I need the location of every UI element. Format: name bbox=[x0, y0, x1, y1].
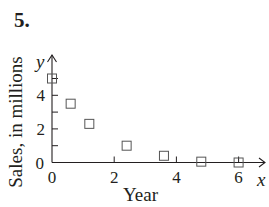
x-axis-letter: x bbox=[256, 169, 266, 190]
y-tick-label: 2 bbox=[37, 120, 46, 139]
data-point-square bbox=[159, 151, 168, 160]
x-tick-label: 4 bbox=[172, 168, 181, 187]
scatter-plot: 0246024xy bbox=[0, 0, 269, 207]
x-tick-label: 2 bbox=[110, 168, 119, 187]
data-point-square bbox=[197, 157, 206, 166]
x-tick-label: 6 bbox=[234, 168, 243, 187]
data-point-square bbox=[122, 141, 131, 150]
data-point-square bbox=[85, 119, 94, 128]
x-tick-label: 0 bbox=[48, 168, 57, 187]
y-axis-letter: y bbox=[34, 51, 45, 72]
y-tick-label: 0 bbox=[36, 154, 45, 173]
y-tick-label: 4 bbox=[37, 86, 46, 105]
data-point-square bbox=[66, 99, 75, 108]
